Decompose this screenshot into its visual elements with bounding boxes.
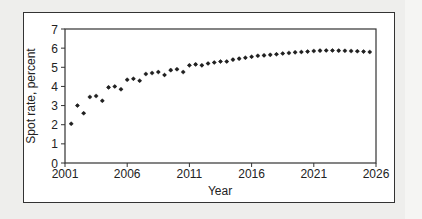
data-point-marker (150, 71, 154, 75)
data-point-marker (75, 103, 79, 107)
data-point-marker (343, 49, 347, 53)
data-point-marker (156, 70, 160, 74)
data-point-marker (94, 94, 98, 98)
plot-area (65, 29, 376, 163)
data-point-marker (187, 63, 191, 67)
data-point-marker (113, 84, 117, 88)
x-tick-label: 2026 (363, 167, 390, 181)
data-point-marker (200, 63, 204, 67)
data-point-marker (193, 62, 197, 66)
data-point-marker (137, 78, 141, 82)
x-axis-ticks: 200120062011201620212026 (52, 163, 390, 181)
y-axis-ticks: 01234567 (51, 23, 65, 171)
data-point-marker (256, 54, 260, 58)
x-axis-title: Year (208, 184, 232, 198)
y-tick-label: 7 (51, 23, 58, 37)
y-tick-label: 5 (51, 61, 58, 75)
data-points (69, 48, 372, 126)
plot-axes (65, 29, 376, 163)
data-point-marker (144, 72, 148, 76)
data-point-marker (361, 49, 365, 53)
y-tick-label: 3 (51, 99, 58, 113)
data-point-marker (237, 56, 241, 60)
data-point-marker (225, 59, 229, 63)
y-tick-label: 4 (51, 80, 58, 94)
spot-rate-chart: 01234567 200120062011201620212026 Year S… (0, 0, 422, 219)
data-point-marker (69, 122, 73, 126)
data-point-marker (324, 48, 328, 52)
data-point-marker (330, 48, 334, 52)
data-point-marker (106, 85, 110, 89)
data-point-marker (287, 51, 291, 55)
data-point-marker (125, 78, 129, 82)
y-tick-label: 6 (51, 42, 58, 56)
data-point-marker (312, 49, 316, 53)
data-point-marker (100, 99, 104, 103)
data-point-marker (349, 49, 353, 53)
data-point-marker (281, 51, 285, 55)
data-point-marker (175, 67, 179, 71)
x-tick-label: 2006 (114, 167, 141, 181)
data-point-marker (268, 53, 272, 57)
x-tick-label: 2021 (300, 167, 327, 181)
data-point-marker (318, 48, 322, 52)
y-tick-label: 1 (51, 137, 58, 151)
data-point-marker (169, 68, 173, 72)
data-point-marker (131, 77, 135, 81)
data-point-marker (218, 59, 222, 63)
y-tick-label: 2 (51, 118, 58, 132)
x-tick-label: 2011 (176, 167, 202, 181)
data-point-marker (305, 49, 309, 53)
data-point-marker (206, 61, 210, 65)
data-point-marker (336, 48, 340, 52)
data-point-marker (293, 50, 297, 54)
data-point-marker (243, 56, 247, 60)
data-point-marker (274, 52, 278, 56)
data-point-marker (299, 50, 303, 54)
data-point-marker (119, 87, 123, 91)
data-point-marker (368, 50, 372, 54)
data-point-marker (212, 60, 216, 64)
data-point-marker (181, 70, 185, 74)
data-point-marker (231, 57, 235, 61)
data-point-marker (162, 73, 166, 77)
y-axis-title: Spot rate, percent (24, 48, 38, 144)
x-tick-label: 2016 (238, 167, 265, 181)
data-point-marker (88, 95, 92, 99)
x-tick-label: 2001 (52, 167, 79, 181)
data-point-marker (81, 111, 85, 115)
data-point-marker (355, 49, 359, 53)
data-point-marker (249, 55, 253, 59)
data-point-marker (262, 53, 266, 57)
